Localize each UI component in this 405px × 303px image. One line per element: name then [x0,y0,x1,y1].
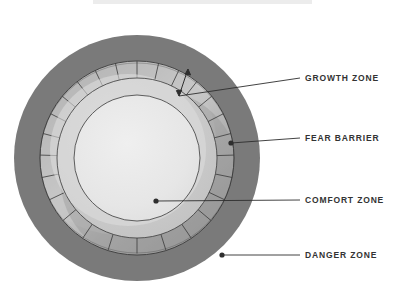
ring-comfort-zone [74,95,200,221]
diagram-canvas: GROWTH ZONE FEAR BARRIER COMFORT ZONE DA… [0,0,405,303]
leader-danger-zone [219,252,300,257]
label-growth-zone: GROWTH ZONE [305,74,379,83]
label-fear-barrier: FEAR BARRIER [305,134,379,143]
label-comfort-zone: COMFORT ZONE [305,196,384,205]
label-danger-zone: DANGER ZONE [305,251,377,260]
